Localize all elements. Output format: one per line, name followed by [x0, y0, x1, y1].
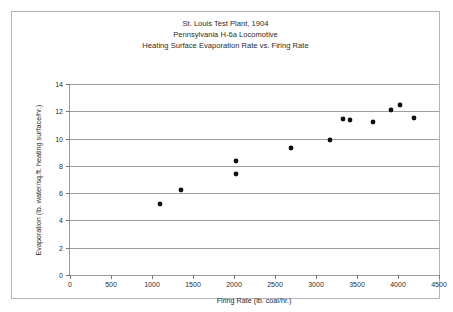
data-point: [289, 146, 293, 150]
data-point: [234, 159, 238, 163]
x-axis-tick: [193, 275, 194, 279]
data-point: [371, 120, 375, 124]
data-point: [234, 172, 238, 176]
y-axis-tick: [66, 193, 70, 194]
x-axis-title: Firing Rate (lb. coal/hr.): [69, 296, 439, 305]
y-axis-tick: [66, 248, 70, 249]
x-axis-tick: [152, 275, 153, 279]
x-axis-tick: [439, 275, 440, 279]
x-axis-tick: [111, 275, 112, 279]
y-axis-tick: [66, 111, 70, 112]
gridline-y: [70, 84, 439, 85]
chart-title: St. Louis Test Plant, 1904 Pennsylvania …: [12, 18, 439, 51]
y-axis-tick: [66, 166, 70, 167]
y-axis-tick: [66, 220, 70, 221]
gridline-y: [70, 111, 439, 112]
gridline-y: [70, 139, 439, 140]
x-axis-tick-label: 2500: [267, 281, 283, 288]
x-axis-tick: [398, 275, 399, 279]
y-axis-tick-label: 10: [55, 135, 63, 142]
data-point: [389, 108, 393, 112]
x-axis-tick-label: 1000: [144, 281, 160, 288]
y-axis-tick-label: 0: [59, 272, 63, 279]
x-axis-tick-label: 1500: [185, 281, 201, 288]
x-axis-tick-label: 4000: [390, 281, 406, 288]
x-axis-tick-label: 0: [68, 281, 72, 288]
x-axis-tick: [275, 275, 276, 279]
x-axis-tick: [316, 275, 317, 279]
x-axis-tick-label: 500: [105, 281, 117, 288]
x-axis-tick: [70, 275, 71, 279]
figure-frame: St. Louis Test Plant, 1904 Pennsylvania …: [11, 11, 440, 299]
y-axis-tick-label: 12: [55, 108, 63, 115]
x-axis-tick-label: 3500: [349, 281, 365, 288]
data-point: [179, 188, 183, 192]
gridline-y: [70, 220, 439, 221]
x-axis-tick: [357, 275, 358, 279]
y-axis-tick: [66, 84, 70, 85]
data-point: [398, 103, 402, 107]
gridline-y: [70, 248, 439, 249]
gridline-y: [70, 166, 439, 167]
y-axis-tick-label: 14: [55, 81, 63, 88]
data-point: [412, 116, 416, 120]
gridline-y: [70, 193, 439, 194]
data-point: [328, 138, 332, 142]
data-point: [158, 202, 162, 206]
chart-title-line-2: Pennsylvania H-6a Locomotive: [12, 29, 439, 40]
y-axis-tick-label: 2: [59, 244, 63, 251]
chart-title-line-1: St. Louis Test Plant, 1904: [12, 18, 439, 29]
y-axis-tick-label: 8: [59, 162, 63, 169]
data-point: [341, 117, 345, 121]
plot-area: 0246810121405001000150020002500300035004…: [69, 84, 439, 276]
x-axis-tick-label: 2000: [226, 281, 242, 288]
y-axis-title: Evaporation (lb. water/sq.ft. heating su…: [34, 104, 43, 255]
y-axis-tick-label: 4: [59, 217, 63, 224]
y-axis-tick: [66, 139, 70, 140]
x-axis-tick-label: 3000: [308, 281, 324, 288]
x-axis-tick: [234, 275, 235, 279]
chart-title-line-3: Heating Surface Evaporation Rate vs. Fir…: [12, 40, 439, 51]
y-axis-tick-label: 6: [59, 190, 63, 197]
x-axis-tick-label: 4500: [431, 281, 447, 288]
data-point: [348, 118, 352, 122]
